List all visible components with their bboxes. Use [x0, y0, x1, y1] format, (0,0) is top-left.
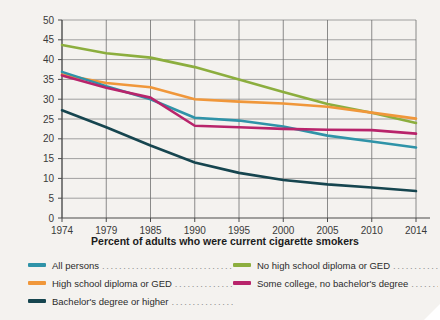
legend-dot-leader: ........	[411, 278, 438, 289]
y-tick-label: 25	[43, 114, 55, 125]
legend-item-label: Bachelor's degree or higher	[52, 296, 171, 307]
chart-plot-area: 05101520253035404550 1974197919851990199…	[0, 0, 440, 250]
legend-item[interactable]: Some college, no bachelor's degree......…	[233, 276, 438, 290]
y-axis	[58, 20, 62, 218]
y-tick-label: 40	[43, 54, 55, 65]
y-tick-label: 15	[43, 153, 55, 164]
y-tick-label: 50	[43, 15, 55, 26]
x-tick-label: 1974	[51, 225, 74, 236]
y-tick-label: 35	[43, 74, 55, 85]
chart-page: 05101520253035404550 1974197919851990199…	[0, 0, 440, 320]
legend-item[interactable]: All persons.............................…	[28, 258, 233, 272]
x-axis	[62, 218, 430, 222]
legend-item[interactable]: No high school diploma or GED...........…	[233, 258, 438, 272]
legend-dot-leader: .................	[175, 278, 233, 289]
chart-title: Percent of adults who were current cigar…	[91, 235, 359, 247]
legend-column-right: No high school diploma or GED...........…	[233, 258, 438, 320]
legend-dot-leader: ................................	[102, 260, 233, 271]
y-axis-tick-labels: 05101520253035404550	[43, 15, 55, 224]
legend-item-label: Some college, no bachelor's degree	[257, 278, 411, 289]
legend-column-left: All persons.............................…	[28, 258, 233, 320]
y-tick-label: 30	[43, 94, 55, 105]
legend-item-label: No high school diploma or GED	[257, 260, 393, 271]
legend-color-swatch	[233, 281, 251, 285]
y-tick-label: 45	[43, 34, 55, 45]
legend-color-swatch	[233, 263, 251, 267]
legend-color-swatch	[28, 281, 46, 285]
x-tick-label: 2010	[361, 225, 384, 236]
y-tick-label: 5	[48, 193, 54, 204]
legend-color-swatch	[28, 299, 46, 303]
legend-dot-leader: .............	[393, 260, 438, 271]
legend-color-swatch	[28, 263, 46, 267]
y-tick-label: 20	[43, 133, 55, 144]
line-chart-svg: 05101520253035404550 1974197919851990199…	[0, 0, 440, 250]
legend-item[interactable]: Bachelor's degree or higher.............…	[28, 294, 233, 308]
legend-item[interactable]: High school diploma or GED..............…	[28, 276, 233, 290]
chart-legend: All persons.............................…	[0, 252, 440, 320]
y-tick-label: 0	[48, 213, 54, 224]
x-tick-label: 2014	[405, 225, 428, 236]
legend-item-label: All persons	[52, 260, 102, 271]
y-tick-label: 10	[43, 173, 55, 184]
legend-dot-leader: ................	[171, 296, 233, 307]
legend-item-label: High school diploma or GED	[52, 278, 175, 289]
